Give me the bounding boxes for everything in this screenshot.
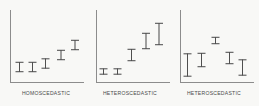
panel-1-label: HOMOSCEDASTIC xyxy=(6,90,86,96)
errorbar-4 xyxy=(57,50,65,60)
errorbar-2 xyxy=(29,62,37,72)
panel-heteroscedastic-increasing: HETEROSCEDASTIC xyxy=(86,0,174,106)
errorbar-4 xyxy=(226,52,234,64)
errorbar-1 xyxy=(16,62,24,72)
panel-2-errorbars xyxy=(100,23,164,75)
panel-1-errorbars xyxy=(16,40,80,72)
errorbar-1 xyxy=(100,69,108,75)
errorbar-3 xyxy=(42,59,50,69)
errorbar-5 xyxy=(71,40,79,50)
errorbar-2 xyxy=(198,53,206,67)
panel-2-label: HETEROSCEDASTIC xyxy=(90,90,170,96)
errorbar-4 xyxy=(142,33,150,49)
errorbar-5 xyxy=(239,60,247,76)
panel-1-plot xyxy=(0,0,90,90)
errorbar-5 xyxy=(155,23,163,45)
errorbar-figure: HOMOSCEDASTIC xyxy=(0,0,259,106)
errorbar-3 xyxy=(212,37,220,44)
panel-2-axes xyxy=(96,10,170,83)
panel-3-label: HETEROSCEDASTIC xyxy=(174,90,254,96)
panel-homoscedastic: HOMOSCEDASTIC xyxy=(0,0,90,106)
errorbar-2 xyxy=(114,69,122,75)
panel-3-errorbars xyxy=(184,37,247,77)
panel-heteroscedastic-nonmonotonic: HETEROSCEDASTIC xyxy=(170,0,259,106)
errorbar-3 xyxy=(128,49,136,61)
errorbar-1 xyxy=(184,54,192,77)
panel-3-plot xyxy=(170,0,259,90)
panel-2-plot xyxy=(86,0,174,90)
